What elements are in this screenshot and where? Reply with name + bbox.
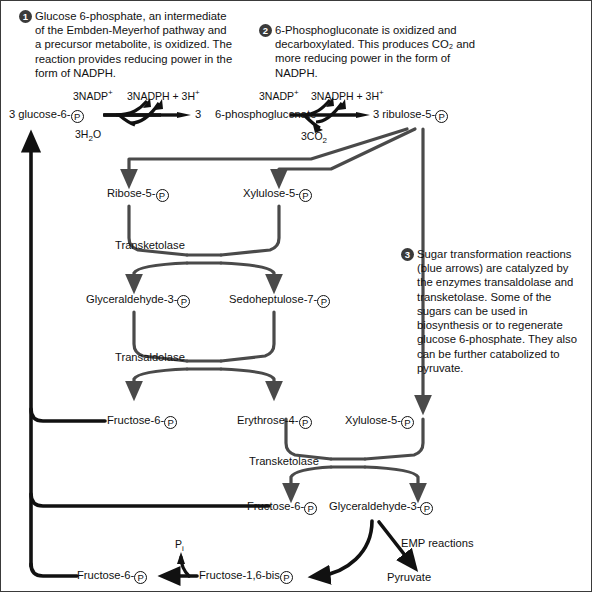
ribulose-5-p-text: 3 ribulose-5- [373,108,435,120]
callout-3-line-1: Sugar transformation reactions [417,247,591,261]
nadph-charge-2: + [379,88,384,97]
phosphate-icon: P [420,502,433,515]
metabolite-pyruvate: Pyruvate [387,571,431,584]
phosphate-icon: P [280,571,293,584]
f6p-3-text: Fructose-6- [77,569,134,581]
callout-3-line-6: biosynthesis or to regenerate [417,318,591,332]
enzyme-transketolase-1: Transketolase [115,239,185,252]
callout-2-line-3: more reducing power in the form of [275,51,494,65]
metabolite-ribose-5-p: Ribose-5-P [107,187,169,202]
nadph-label-2: 3NADPH + 3H [311,90,379,102]
metabolite-glucose-6-p: 3 glucose-6-P [9,108,84,123]
callout-1: 1 Glucose 6-phosphate, an intermediate o… [19,9,249,80]
annotation-inorganic-phosphate: Pi [175,538,184,553]
metabolite-fructose-1-6-bisphosphate: Fructose-1,6-bisP [199,569,293,584]
callout-3-line-7: glucose 6-phosphate. They also [417,332,591,346]
diagram-canvas: 1 Glucose 6-phosphate, an intermediate o… [0,0,592,592]
phosphate-icon: P [177,295,190,308]
xylulose-5-p-a-text: Xylulose-5- [243,187,299,199]
f6p-1-text: Fructose-6- [107,414,164,426]
callout-3-line-3: the enzymes transaldolase and [417,275,591,289]
pi-label: P [175,538,182,550]
metabolite-fructose-6-p-1: Fructose-6-P [107,414,177,429]
metabolite-ribulose-5-p: 3 ribulose-5-P [373,108,448,123]
nadph-charge-1: + [195,88,200,97]
product-count-3: 3 [195,108,201,121]
annotation-emp-reactions: EMP reactions [401,537,474,550]
gap-1-text: Glyceraldehyde-3- [86,293,177,305]
f6p-2-text: Fructose-6- [247,500,304,512]
nadp-label-2: 3NADP [259,90,294,102]
callout-1-line-4: reaction provides reducing power in the [35,52,249,66]
metabolite-fructose-6-p-2: Fructose-6-P [247,500,317,515]
ribose-5-p-text: Ribose-5- [107,187,156,199]
phosphate-icon: P [299,416,312,429]
water-tail: O [93,128,101,140]
fbp-text: Fructose-1,6-bis [199,569,280,581]
phosphate-icon: P [435,110,448,123]
metabolite-glyceraldehyde-3-p-1: Glyceraldehyde-3-P [86,293,190,308]
metabolite-xylulose-5-p-b: Xylulose-5-P [345,414,414,429]
metabolite-fructose-6-p-3: Fructose-6-P [77,569,147,584]
nadph-label-1: 3NADPH + 3H [127,90,195,102]
phosphate-icon: P [156,189,169,202]
callout-3-line-9: pyruvate. [417,361,591,375]
callout-3-line-4: transketolase. Some of the [417,290,591,304]
phosphate-icon: P [134,571,147,584]
callout-2-badge: 2 [259,24,272,37]
cofactor-nadph-out-2: 3NADPH + 3H+ [311,88,384,102]
callout-1-line-3: a precursor metabolite, is oxidized. The [35,37,249,51]
callout-1-badge: 1 [19,10,32,23]
callout-1-line-1: Glucose 6-phosphate, an intermediate [35,9,249,23]
metabolite-6-phosphogluconate: 6-phosphogluconate [215,108,316,121]
metabolite-xylulose-5-p-a: Xylulose-5-P [243,187,312,202]
callout-3-line-2: (blue arrows) are catalyzed by [417,261,591,275]
callout-3-line-8: can be further catabolized to [417,347,591,361]
phosphate-icon: P [401,416,414,429]
water-label: 3H [75,128,88,140]
callout-1-line-2: of the Embden-Meyerhof pathway and [35,23,249,37]
byproduct-co2: 3CO2 [301,130,327,145]
callout-3-line-5: sugars can be used in [417,304,591,318]
callout-3-badge: 3 [401,248,414,261]
co2-sub: 2 [323,136,327,145]
xylulose-5-p-b-text: Xylulose-5- [345,414,401,426]
sugar-transformation-arrows [129,129,423,493]
phosphate-icon: P [299,189,312,202]
metabolite-sedoheptulose-7-p: Sedoheptulose-7-P [229,293,330,308]
phosphate-icon: P [164,416,177,429]
pi-sub: i [182,544,184,553]
nadp-charge-1: + [108,88,113,97]
callout-3: 3 Sugar transformation reactions (blue a… [401,247,591,375]
metabolite-glyceraldehyde-3-p-2: Glyceraldehyde-3-P [329,500,433,515]
callout-2-line-1: 6-Phosphogluconate is oxidized and [275,23,494,37]
phosphate-icon: P [304,502,317,515]
sedoheptulose-7-p-text: Sedoheptulose-7- [229,293,317,305]
callout-2-line-2: decarboxylated. This produces CO₂ and [275,37,494,51]
nadp-label-1: 3NADP [73,90,108,102]
gap-2-text: Glyceraldehyde-3- [329,500,420,512]
callout-2-line-4: NADPH. [275,66,494,80]
glucose-6-p-text: 3 glucose-6- [9,108,71,120]
metabolite-erythrose-4-p: Erythrose-4-P [237,414,312,429]
cofactor-nadp-in-1: 3NADP+ [73,88,113,102]
erythrose-4-p-text: Erythrose-4- [237,414,299,426]
nadp-charge-2: + [294,88,299,97]
byproduct-water: 3H2O [75,128,101,143]
phosphate-icon: P [71,110,84,123]
enzyme-transketolase-2: Transketolase [249,455,319,468]
callout-1-line-5: form of NADPH. [35,66,249,80]
callout-2: 2 6-Phosphogluconate is oxidized and dec… [259,23,494,80]
cofactor-nadph-out-1: 3NADPH + 3H+ [127,88,200,102]
enzyme-transaldolase: Transaldolase [115,351,185,364]
co2-label: 3CO [301,130,323,142]
cofactor-nadp-in-2: 3NADP+ [259,88,299,102]
phosphate-icon: P [317,295,330,308]
